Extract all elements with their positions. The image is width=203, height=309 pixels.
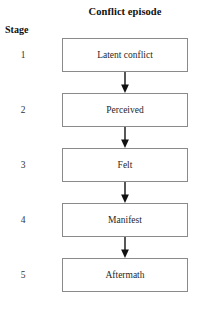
stage-box-label-2: Perceived <box>106 104 143 116</box>
stage-box-label-1: Latent conflict <box>97 49 153 61</box>
stage-number-1: 1 <box>10 38 36 72</box>
stage-row: 4 Manifest <box>0 203 203 237</box>
connector-arrow-4-to-5 <box>118 237 132 258</box>
down-arrow-icon <box>118 127 132 148</box>
stage-box-3[interactable]: Felt <box>62 148 188 182</box>
connector-arrow-2-to-3 <box>118 127 132 148</box>
stage-row: 5 Aftermath <box>0 258 203 292</box>
stage-row: 2 Perceived <box>0 93 203 127</box>
stage-box-label-3: Felt <box>118 159 133 171</box>
stage-box-4[interactable]: Manifest <box>62 203 188 237</box>
connector-arrow-3-to-4 <box>118 182 132 203</box>
stage-row: 3 Felt <box>0 148 203 182</box>
stage-box-5[interactable]: Aftermath <box>62 258 188 292</box>
stage-number-3: 3 <box>10 148 36 182</box>
stage-box-2[interactable]: Perceived <box>62 93 188 127</box>
stage-box-label-5: Aftermath <box>105 269 144 281</box>
down-arrow-icon <box>118 182 132 203</box>
diagram-title: Conflict episode <box>62 6 188 18</box>
stage-number-5: 5 <box>10 258 36 292</box>
conflict-episode-diagram: Conflict episode Stage 1 Latent conflict… <box>0 0 203 309</box>
stage-number-4: 4 <box>10 203 36 237</box>
down-arrow-icon <box>118 72 132 93</box>
stage-number-2: 2 <box>10 93 36 127</box>
stage-column-header: Stage <box>5 24 28 36</box>
stage-row: 1 Latent conflict <box>0 38 203 72</box>
stage-box-1[interactable]: Latent conflict <box>62 38 188 72</box>
down-arrow-icon <box>118 237 132 258</box>
stage-box-label-4: Manifest <box>108 214 142 226</box>
connector-arrow-1-to-2 <box>118 72 132 93</box>
